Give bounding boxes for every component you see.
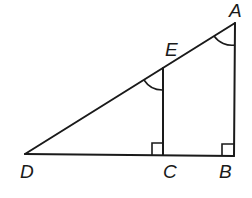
segment-DB [25, 154, 234, 156]
triangle-diagram: A E D C B [0, 0, 252, 198]
label-E: E [165, 39, 178, 60]
label-D: D [20, 161, 34, 182]
angle-arc-A [214, 36, 235, 45]
right-angle-mark-B [222, 144, 234, 156]
right-angle-mark-C [152, 143, 163, 155]
segment-AB [234, 23, 235, 156]
label-C: C [163, 161, 177, 182]
label-A: A [228, 0, 242, 21]
label-B: B [219, 161, 232, 182]
angle-arc-E [144, 80, 163, 90]
segment-DA [25, 23, 235, 154]
